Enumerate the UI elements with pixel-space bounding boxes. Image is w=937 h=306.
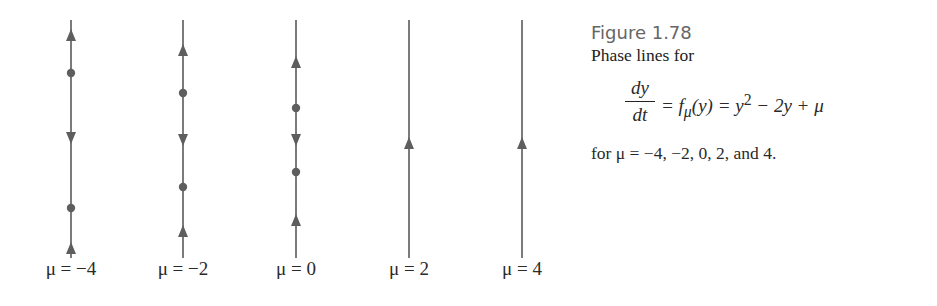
phase-line <box>517 20 527 258</box>
phase-line <box>178 20 188 258</box>
rhs-superscript: 2 <box>744 91 752 108</box>
arrow-down-icon <box>66 132 76 144</box>
equilibrium-point-icon <box>67 69 75 77</box>
mu-label: μ = −2 <box>158 258 209 280</box>
phase-line <box>404 20 414 258</box>
equilibrium-point-icon <box>292 168 300 176</box>
figure-number: Figure 1.78 <box>591 22 931 44</box>
fraction-denominator: dt <box>625 103 655 127</box>
equilibrium-point-icon <box>179 89 187 97</box>
arrow-up-icon <box>517 137 527 149</box>
derivative-fraction: dy dt <box>625 76 655 127</box>
arrow-up-icon <box>66 29 76 41</box>
arrow-down-icon <box>178 134 188 146</box>
mu-label: μ = 4 <box>502 258 542 280</box>
phase-line <box>66 20 76 258</box>
phase-line-figure: μ = −4μ = −2μ = 0μ = 2μ = 4 <box>0 0 580 306</box>
equilibrium-point-icon <box>67 204 75 212</box>
equilibrium-point-icon <box>292 104 300 112</box>
rhs-part1: = f <box>661 95 684 116</box>
arrow-up-icon <box>291 56 301 68</box>
differential-equation: dy dt = fμ(y) = y2 − 2y + μ <box>625 76 931 134</box>
equation-rhs: = fμ(y) = y2 − 2y + μ <box>661 91 824 121</box>
arrow-up-icon <box>291 214 301 226</box>
caption-intro: Phase lines for <box>591 44 931 66</box>
phase-line <box>291 20 301 258</box>
figure-caption: Figure 1.78 Phase lines for dy dt = fμ(y… <box>591 22 931 164</box>
arrow-down-icon <box>291 134 301 146</box>
mu-label: μ = −4 <box>46 258 97 280</box>
fraction-bar <box>625 101 655 102</box>
rhs-part3: − 2y + μ <box>752 95 824 116</box>
arrow-up-icon <box>66 242 76 254</box>
arrow-up-icon <box>178 44 188 56</box>
arrow-up-icon <box>404 137 414 149</box>
mu-label: μ = 0 <box>276 258 316 280</box>
rhs-subscript: μ <box>684 103 692 120</box>
mu-label: μ = 2 <box>389 258 429 280</box>
rhs-part2: (y) = y <box>692 95 744 116</box>
equilibrium-point-icon <box>179 183 187 191</box>
caption-parameter-values: for μ = −4, −2, 0, 2, and 4. <box>591 142 931 164</box>
fraction-numerator: dy <box>625 76 655 100</box>
arrow-up-icon <box>178 225 188 237</box>
